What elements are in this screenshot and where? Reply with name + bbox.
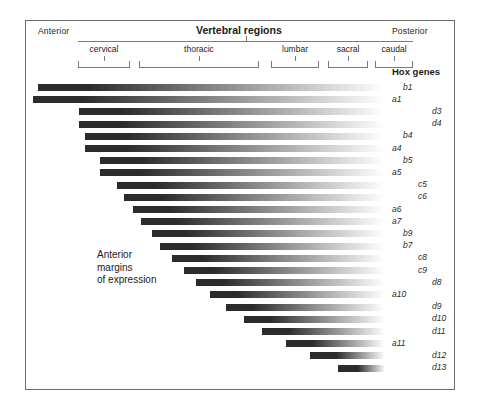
anterior-margins-annotation: Anterior margins of expression — [97, 249, 156, 287]
expression-bar-a10 — [210, 291, 385, 298]
vertebral-regions-bracket — [78, 41, 413, 42]
expression-bar-b4 — [85, 133, 385, 140]
expression-bar-c8 — [172, 255, 385, 262]
expression-bar-b9 — [152, 230, 385, 237]
expression-bar-a5 — [100, 169, 385, 176]
region-bracket-sacral — [328, 61, 368, 68]
annotation-line-2: margins — [97, 262, 156, 275]
gene-label-d10: d10 — [432, 313, 446, 323]
region-bracket-stem-cervical — [104, 56, 105, 61]
gene-label-d3: d3 — [432, 106, 441, 116]
gene-label-c9: c9 — [418, 265, 427, 275]
region-bracket-stem-lumbar — [295, 56, 296, 61]
region-bracket-stem-sacral — [348, 56, 349, 61]
region-bracket-thoracic — [139, 61, 259, 68]
figure-frame — [25, 20, 455, 390]
gene-label-d13: d13 — [432, 362, 446, 372]
expression-bar-a4 — [85, 145, 385, 152]
gene-label-d11: d11 — [432, 326, 446, 336]
gene-label-a5: a5 — [392, 167, 401, 177]
expression-bar-a1 — [33, 96, 385, 103]
expression-bar-b7 — [160, 243, 385, 250]
gene-label-d9: d9 — [432, 301, 441, 311]
gene-label-b5: b5 — [403, 155, 412, 165]
expression-bar-a7 — [141, 218, 385, 225]
annotation-line-1: Anterior — [97, 249, 156, 262]
region-bracket-caudal — [375, 61, 413, 68]
gene-label-d12: d12 — [432, 350, 446, 360]
expression-bar-d12 — [310, 352, 385, 359]
region-label-caudal: caudal — [375, 44, 413, 54]
gene-label-d4: d4 — [432, 118, 441, 128]
vertebral-regions-bracket-stem — [246, 36, 247, 41]
expression-bar-d10 — [244, 316, 385, 323]
gene-label-c8: c8 — [418, 252, 427, 262]
region-label-sacral: sacral — [328, 44, 368, 54]
region-bracket-lumbar — [271, 61, 319, 68]
gene-label-d8: d8 — [432, 277, 441, 287]
gene-label-a10: a10 — [392, 289, 406, 299]
expression-bar-d8 — [196, 279, 385, 286]
gene-label-c5: c5 — [418, 179, 427, 189]
figure-canvas: Anterior Posterior Vertebral regions Hox… — [0, 0, 480, 405]
expression-bar-c5 — [117, 182, 385, 189]
gene-label-a1: a1 — [392, 94, 401, 104]
vertebral-regions-title: Vertebral regions — [196, 24, 282, 36]
anterior-label: Anterior — [38, 26, 69, 36]
region-bracket-cervical — [78, 61, 130, 68]
posterior-label: Posterior — [392, 26, 428, 36]
gene-label-b1: b1 — [403, 82, 412, 92]
expression-bar-b1 — [38, 84, 385, 91]
gene-label-a6: a6 — [392, 204, 401, 214]
gene-label-c6: c6 — [418, 191, 427, 201]
gene-label-b4: b4 — [403, 130, 412, 140]
region-label-thoracic: thoracic — [139, 44, 259, 54]
region-bracket-stem-thoracic — [199, 56, 200, 61]
expression-bar-c9 — [184, 267, 385, 274]
expression-bar-d3 — [79, 108, 385, 115]
expression-bar-d11 — [262, 328, 385, 335]
expression-bar-d4 — [79, 121, 385, 128]
expression-bar-a6 — [133, 206, 385, 213]
gene-label-a7: a7 — [392, 216, 401, 226]
annotation-line-3: of expression — [97, 274, 156, 287]
region-label-lumbar: lumbar — [271, 44, 319, 54]
expression-bar-a11 — [286, 340, 385, 347]
gene-label-a11: a11 — [392, 338, 406, 348]
gene-label-b7: b7 — [403, 240, 412, 250]
expression-bar-c6 — [124, 194, 385, 201]
region-bracket-stem-caudal — [394, 56, 395, 61]
expression-bar-d13 — [338, 365, 385, 372]
region-label-cervical: cervical — [78, 44, 130, 54]
gene-label-b9: b9 — [403, 228, 412, 238]
gene-label-a4: a4 — [392, 143, 401, 153]
expression-bar-b5 — [100, 157, 385, 164]
expression-bar-d9 — [226, 304, 385, 311]
